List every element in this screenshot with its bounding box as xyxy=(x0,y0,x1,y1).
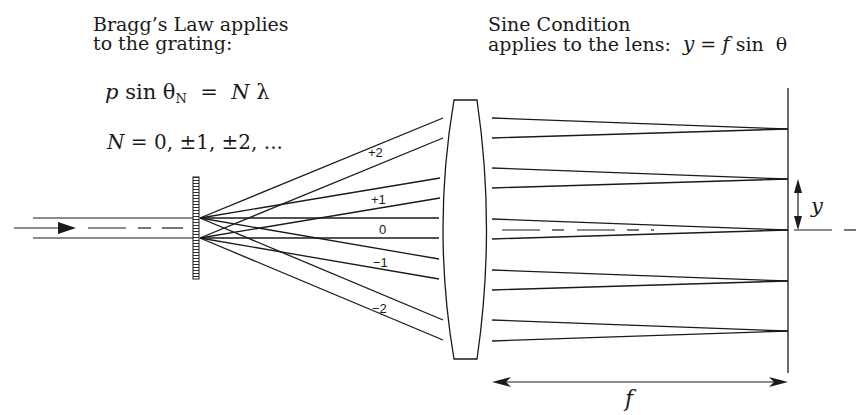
optics-drawing xyxy=(0,0,861,415)
focus-ray-order--1-a xyxy=(492,270,788,281)
orders-values: = 0, ±1, ±2, ... xyxy=(125,130,283,154)
eq-sin: sin xyxy=(125,80,156,104)
sine-eq-equals: = xyxy=(694,33,722,55)
focus-ray-order-1-a xyxy=(492,168,788,179)
order-label-plus2: +2 xyxy=(368,146,383,159)
focus-ray-order--2-a xyxy=(492,320,788,331)
ray-order--2-a xyxy=(200,218,443,320)
sine-caption-text: applies to the lens: xyxy=(488,33,671,55)
sine-caption-line1: Sine Condition xyxy=(488,15,630,34)
incident-beam xyxy=(14,218,196,238)
sine-eq-f: f xyxy=(722,32,729,56)
diffraction-diagram: Bragg’s Law applies to the grating: p si… xyxy=(0,0,861,415)
eq-p: p xyxy=(105,80,118,104)
order-label-minus1: −1 xyxy=(373,256,388,269)
eq-N: N xyxy=(231,80,249,104)
focus-ray-order-0-b xyxy=(492,230,788,239)
eq-equals: = xyxy=(200,80,218,104)
sine-eq-y: y xyxy=(683,32,694,56)
bragg-caption-line2: to the grating: xyxy=(93,34,232,53)
diffraction-grating xyxy=(193,177,199,279)
order-label-minus2: −2 xyxy=(372,302,387,315)
eq-lambda: λ xyxy=(256,80,269,104)
ray-order-1-a xyxy=(200,178,440,218)
orders-equation: N = 0, ±1, ±2, ... xyxy=(107,132,283,152)
bragg-equation: p sin θN = N λ xyxy=(105,82,270,105)
arrow-down-icon xyxy=(794,216,802,230)
y-dimension-label: y xyxy=(811,196,823,217)
orders-N: N xyxy=(107,130,125,154)
eq-theta: θ xyxy=(163,80,176,104)
order-label-zero: 0 xyxy=(379,223,386,236)
sine-caption-line2: applies to the lens: y = f sin θ xyxy=(488,34,787,54)
converging-lens xyxy=(443,100,487,359)
sine-eq-sin-theta: sin θ xyxy=(730,33,788,55)
beam-direction-arrow-icon xyxy=(58,222,76,234)
focus-ray-order--2-b xyxy=(492,331,788,341)
focus-ray-order-0-a xyxy=(492,219,788,230)
focus-ray-order-2-b xyxy=(492,129,788,138)
focus-ray-order-2-a xyxy=(492,118,788,129)
focus-ray-order-1-b xyxy=(492,179,788,188)
focus-ray-order--1-b xyxy=(492,281,788,290)
arrow-up-icon xyxy=(794,179,802,193)
y-dimension-arrow xyxy=(794,179,802,230)
f-dimension-arrow xyxy=(492,377,788,387)
f-dimension-label: f xyxy=(625,388,633,410)
order-label-plus1: +1 xyxy=(371,193,386,206)
ray-order--1-b xyxy=(200,238,439,279)
eq-theta-subscript: N xyxy=(176,91,187,106)
